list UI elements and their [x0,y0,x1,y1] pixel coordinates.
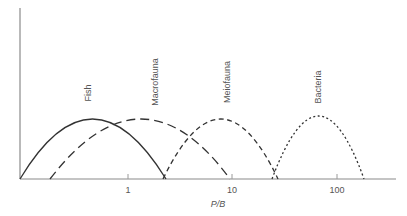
series-bacteria-curve [272,116,364,179]
chart: 1 10 100 P/B Fish Macrofauna Meiofauna B… [0,0,407,216]
x-tick-label-1: 1 [125,185,130,195]
series-meiofauna-curve [163,119,278,179]
series-label-bacteria: Bacteria [313,70,323,103]
x-axis-label: P/B [211,199,226,209]
x-tick-label-100: 100 [329,185,344,195]
series-label-macrofauna: Macrofauna [150,58,160,106]
x-tick-label-10: 10 [227,185,237,195]
series-label-meiofauna: Meiofauna [222,61,232,103]
series-label-fish: Fish [83,84,93,101]
series-macrofauna-curve [50,119,230,179]
series-fish-curve [20,119,166,179]
